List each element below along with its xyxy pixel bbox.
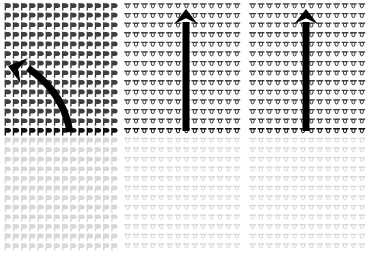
glyph-cell <box>325 128 332 133</box>
glyph-cell <box>13 195 19 203</box>
glyph-cell <box>208 80 215 85</box>
glyph-cell <box>87 233 93 241</box>
glyph-cell <box>21 166 27 174</box>
glyph-cell <box>111 214 117 222</box>
glyph-cell <box>358 90 365 95</box>
glyph-cell <box>208 61 215 66</box>
glyph-cell <box>21 137 27 145</box>
glyph-cell <box>208 138 215 143</box>
glyph-cell <box>141 205 148 210</box>
glyph-cell <box>149 42 156 47</box>
glyph-cell <box>5 118 11 126</box>
glyph-cell <box>78 176 84 184</box>
glyph-cell <box>141 61 148 66</box>
glyph-cell <box>358 119 365 124</box>
glyph-cell <box>70 128 76 136</box>
glyph-cell <box>13 128 19 136</box>
glyph-cell <box>316 109 323 114</box>
glyph-cell <box>175 234 182 239</box>
glyph-cell <box>249 205 256 210</box>
glyph-cell <box>300 138 307 143</box>
glyph-cell <box>54 109 60 117</box>
glyph-cell <box>225 71 232 76</box>
glyph-cell <box>62 233 68 241</box>
glyph-cell <box>316 224 323 229</box>
glyph-cell <box>46 128 52 136</box>
glyph-cell <box>233 147 240 152</box>
glyph-cell <box>358 215 365 220</box>
glyph-cell <box>200 23 207 28</box>
glyph-cell <box>300 167 307 172</box>
glyph-cell <box>124 51 131 56</box>
glyph-cell <box>291 234 298 239</box>
glyph-cell <box>124 32 131 37</box>
glyph-cell <box>5 61 11 69</box>
glyph-cell <box>225 243 232 248</box>
glyph-cell <box>70 109 76 117</box>
glyph-cell <box>283 138 290 143</box>
glyph-cell <box>78 157 84 165</box>
glyph-cell <box>70 147 76 155</box>
glyph-cell <box>141 243 148 248</box>
glyph-cell <box>87 80 93 88</box>
glyph-cell <box>233 99 240 104</box>
glyph-cell <box>166 32 173 37</box>
glyph-cell <box>342 186 349 191</box>
glyph-cell <box>274 234 281 239</box>
glyph-cell <box>149 109 156 114</box>
glyph-cell <box>249 61 256 66</box>
glyph-cell <box>111 137 117 145</box>
glyph-cell <box>13 99 19 107</box>
glyph-cell <box>149 234 156 239</box>
glyph-cell <box>342 51 349 56</box>
glyph-cell <box>111 243 117 251</box>
glyph-cell <box>111 61 117 69</box>
glyph-cell <box>29 157 35 165</box>
glyph-cell <box>208 167 215 172</box>
glyph-cell <box>166 3 173 8</box>
glyph-cell <box>191 243 198 248</box>
glyph-cell <box>217 234 224 239</box>
glyph-cell <box>266 61 273 66</box>
glyph-cell <box>133 23 140 28</box>
glyph-cell <box>54 80 60 88</box>
glyph-cell <box>183 205 190 210</box>
glyph-cell <box>266 157 273 162</box>
glyph-cell <box>200 138 207 143</box>
glyph-cell <box>78 80 84 88</box>
left-glyph-field <box>4 3 118 255</box>
glyph-cell <box>21 99 27 107</box>
glyph-cell <box>111 99 117 107</box>
glyph-cell <box>95 214 101 222</box>
glyph-cell <box>87 185 93 193</box>
glyph-cell <box>141 51 148 56</box>
glyph-cell <box>175 32 182 37</box>
glyph-cell <box>258 138 265 143</box>
glyph-cell <box>175 51 182 56</box>
glyph-cell <box>13 80 19 88</box>
glyph-cell <box>358 176 365 181</box>
glyph-cell <box>183 51 190 56</box>
glyph-cell <box>78 99 84 107</box>
glyph-cell <box>225 80 232 85</box>
glyph-cell <box>274 186 281 191</box>
glyph-cell <box>54 13 60 21</box>
glyph-cell <box>208 176 215 181</box>
glyph-cell <box>266 234 273 239</box>
glyph-cell <box>37 224 43 232</box>
glyph-cell <box>21 13 27 21</box>
glyph-cell <box>274 157 281 162</box>
glyph-cell <box>291 90 298 95</box>
glyph-cell <box>266 186 273 191</box>
glyph-cell <box>5 32 11 40</box>
right-glyph-field <box>249 3 366 255</box>
glyph-cell <box>87 195 93 203</box>
glyph-cell <box>291 157 298 162</box>
glyph-cell <box>133 186 140 191</box>
glyph-cell <box>78 61 84 69</box>
glyph-cell <box>29 214 35 222</box>
glyph-cell <box>225 90 232 95</box>
glyph-cell <box>274 71 281 76</box>
glyph-cell <box>46 214 52 222</box>
glyph-cell <box>78 147 84 155</box>
